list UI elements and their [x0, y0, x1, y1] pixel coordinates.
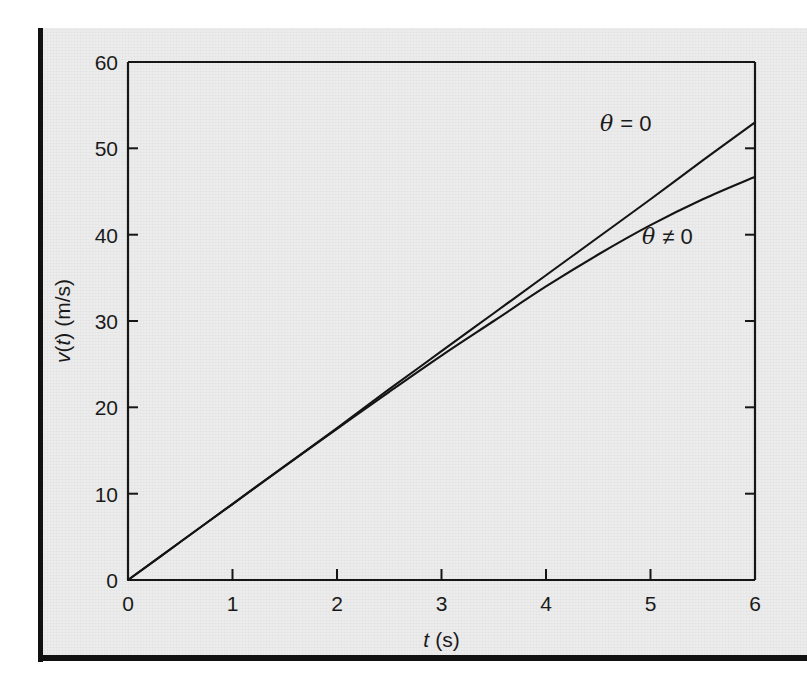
x-tick-label-4: 4	[540, 592, 552, 615]
annotation-eq-1: = 0	[620, 111, 651, 136]
annotation-theta-not-zero-text: θ≠ 0	[642, 224, 693, 249]
theta-symbol-1: θ	[600, 111, 613, 136]
x-tick-label-3: 3	[436, 592, 448, 615]
theta-symbol-2: θ	[642, 224, 655, 249]
y-tick-label-40: 40	[95, 224, 118, 247]
y-tick-label-20: 20	[95, 396, 118, 419]
y-tick-label-50: 50	[95, 137, 118, 160]
x-tick-label-1: 1	[227, 592, 239, 615]
velocity-time-chart: 0 10 20 30 40 50 60 0 1 2 3 4 5 6 t(s) v…	[0, 0, 807, 678]
annotation-neq-2: ≠ 0	[662, 224, 692, 249]
x-tick-label-0: 0	[122, 592, 134, 615]
x-axis-title: t(s)	[423, 628, 459, 651]
x-axis-ticks	[233, 569, 651, 580]
y-tick-label-30: 30	[95, 310, 118, 333]
x-tick-label-2: 2	[331, 592, 343, 615]
y-axis-title-paren-open: (	[51, 346, 74, 353]
y-axis-title-unit: (m/s)	[51, 279, 74, 327]
figure-page: 0 10 20 30 40 50 60 0 1 2 3 4 5 6 t(s) v…	[0, 0, 807, 678]
y-tick-labels: 0 10 20 30 40 50 60	[95, 51, 118, 592]
curve-theta-not-zero	[128, 177, 755, 580]
annotation-theta-equals-zero-text: θ= 0	[600, 111, 651, 136]
y-tick-label-0: 0	[106, 569, 118, 592]
y-axis-ticks	[128, 148, 138, 580]
plot-frame	[128, 62, 755, 580]
x-axis-title-symbol: t	[423, 628, 430, 651]
x-axis-title-unit: (s)	[435, 628, 460, 651]
annotation-theta-equals-zero: θ= 0	[600, 111, 651, 136]
y-axis-ticks-right	[745, 148, 755, 493]
x-tick-labels: 0 1 2 3 4 5 6	[122, 592, 761, 615]
x-tick-label-5: 5	[645, 592, 657, 615]
y-axis-title: v(t)(m/s)	[51, 279, 74, 363]
annotation-theta-not-zero: θ≠ 0	[642, 224, 693, 249]
y-tick-label-60: 60	[95, 51, 118, 74]
y-axis-title-paren-close: )	[51, 333, 74, 340]
y-tick-label-10: 10	[95, 483, 118, 506]
x-tick-label-6: 6	[749, 592, 761, 615]
